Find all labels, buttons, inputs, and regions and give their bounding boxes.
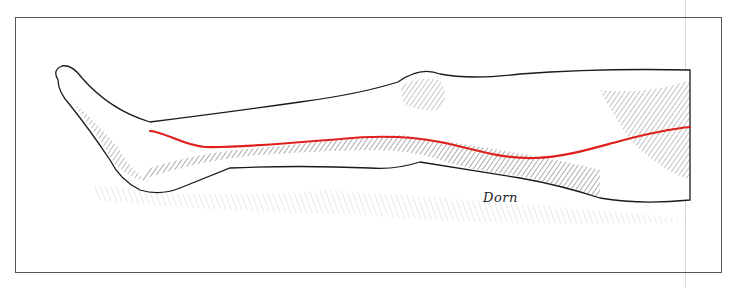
leg-shape bbox=[56, 66, 690, 202]
leg-illustration bbox=[0, 0, 738, 287]
artist-signature: Dorn bbox=[483, 190, 518, 205]
